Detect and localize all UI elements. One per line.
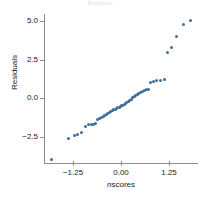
x-tick-label: −1.25 <box>53 169 93 177</box>
x-axis-label-rest: scores <box>111 180 135 189</box>
data-point <box>182 23 185 26</box>
y-tick-label: −2.5 <box>12 133 38 141</box>
chart-title: Residuals <box>0 0 201 7</box>
data-point <box>50 158 53 161</box>
y-tick-label: 5.0 <box>12 17 38 25</box>
data-point <box>159 79 162 82</box>
plot-area <box>44 12 198 163</box>
data-point <box>189 19 192 22</box>
data-point <box>155 79 158 82</box>
data-point <box>170 46 173 49</box>
qq-plot-figure: Residuals −2.50.02.55.0 −1.250.001.25 Re… <box>0 0 201 197</box>
data-point <box>76 133 79 136</box>
x-tick-label: 0.00 <box>101 169 141 177</box>
y-axis-label: Residuals <box>10 51 19 95</box>
x-tick-label: 1.25 <box>149 169 189 177</box>
data-point <box>80 131 83 134</box>
data-point <box>147 88 150 91</box>
data-point <box>94 122 97 125</box>
data-point <box>67 137 70 140</box>
y-tick-label: 0.0 <box>12 94 38 102</box>
x-axis-label: nscores <box>44 180 198 189</box>
data-point <box>163 78 166 81</box>
data-point <box>166 51 169 54</box>
data-point <box>175 35 178 38</box>
